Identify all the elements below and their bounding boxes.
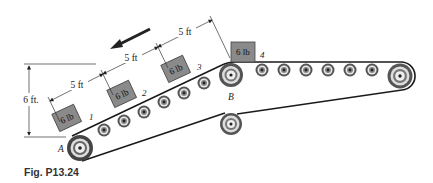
height-label: 6 ft.: [23, 95, 38, 105]
point-b-label: B: [228, 92, 234, 102]
pulley-right: [388, 64, 413, 89]
package-2: 6 lb: [107, 80, 137, 107]
point-a-label: A: [57, 144, 64, 154]
package-1-number: 1: [89, 112, 94, 122]
pulley-b: [219, 63, 243, 87]
package-4: 6 lb: [231, 42, 255, 62]
package-1: 6 lb: [52, 104, 82, 131]
arrow-left-down-icon: [110, 29, 150, 49]
conveyor-diagram: 6 lb 1 6 lb 2 6 lb 3 6 lb 4 5 ft 5 ft 5 …: [0, 0, 433, 183]
svg-text:6 lb: 6 lb: [236, 47, 250, 57]
dimension-label-1: 5 ft: [71, 80, 84, 90]
pulley-a: [67, 135, 93, 161]
dimension-label-2: 5 ft: [125, 53, 138, 63]
extension-lines: [48, 16, 230, 122]
package-3-number: 3: [196, 62, 202, 72]
package-2-number: 2: [142, 88, 147, 98]
package-4-number: 4: [260, 50, 265, 60]
dimension-label-3: 5 ft: [179, 27, 192, 37]
figure-caption: Fig. P13.24: [24, 166, 79, 178]
horizontal-rollers: [256, 64, 379, 77]
package-3: 6 lb: [161, 55, 191, 82]
pulley-lower: [220, 113, 242, 135]
